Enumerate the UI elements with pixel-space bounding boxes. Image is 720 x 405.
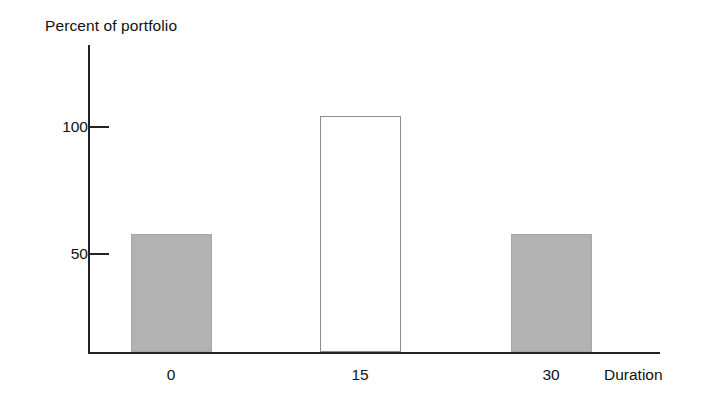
y-axis-title: Percent of portfolio [45, 17, 177, 35]
x-tick-label-15: 15 [351, 366, 368, 384]
bar-30 [511, 234, 592, 352]
x-tick-label-30: 30 [542, 366, 559, 384]
y-tick-label-100: 100 [28, 118, 88, 136]
x-tick-label-0: 0 [167, 366, 176, 384]
x-axis-title: Duration [604, 366, 663, 384]
bar-0 [131, 234, 212, 352]
x-axis-line [88, 352, 660, 354]
bar-chart: Percent of portfolio 100 50 0 15 30 Dura… [0, 0, 720, 405]
plot-area [88, 45, 660, 352]
y-tick-label-50: 50 [28, 245, 88, 263]
bar-15 [320, 116, 401, 352]
